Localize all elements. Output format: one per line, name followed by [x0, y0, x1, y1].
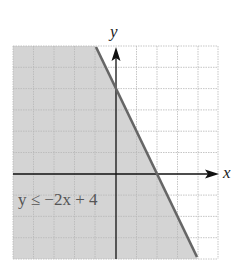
x-axis-label: x — [223, 163, 231, 183]
y-axis-label: y — [110, 22, 118, 42]
inequality-label: y ≤ −2x + 4 — [18, 190, 98, 210]
